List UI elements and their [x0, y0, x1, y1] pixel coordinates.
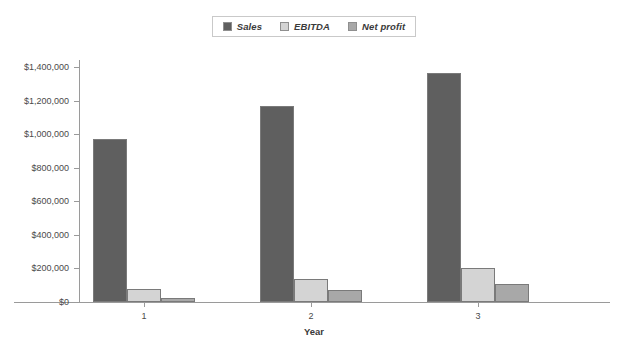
y-axis-tick-label: $1,400,000: [24, 62, 69, 72]
bar-ebitda-year-1[interactable]: [127, 289, 161, 302]
bar-chart: Sales EBITDA Net profit $1,400,000$1,200…: [0, 0, 628, 351]
x-axis-tick: [478, 302, 479, 307]
y-axis-tick: [74, 134, 79, 135]
y-axis-tick: [74, 268, 79, 269]
y-axis-tick-label: $0: [59, 297, 69, 307]
bar-sales-year-3[interactable]: [427, 73, 461, 302]
bar-net-profit-year-2[interactable]: [328, 290, 362, 302]
x-axis-tick-label: 3: [475, 311, 480, 321]
plot-wrapper: $1,400,000$1,200,000$1,000,000$800,000$6…: [0, 0, 628, 351]
y-axis-tick-label: $200,000: [31, 263, 69, 273]
y-axis-tick-label: $800,000: [31, 163, 69, 173]
x-axis-tick: [311, 302, 312, 307]
y-axis-tick: [74, 101, 79, 102]
y-axis-tick-label: $1,200,000: [24, 96, 69, 106]
x-axis-line: [14, 302, 610, 303]
bar-ebitda-year-2[interactable]: [294, 279, 328, 303]
y-axis-tick-label: $1,000,000: [24, 129, 69, 139]
x-axis-tick-label: 1: [141, 311, 146, 321]
x-axis-tick-label: 2: [308, 311, 313, 321]
y-axis-tick-label: $600,000: [31, 196, 69, 206]
plot-area: [80, 67, 608, 302]
y-axis-tick: [74, 67, 79, 68]
bar-net-profit-year-1[interactable]: [161, 298, 195, 302]
y-axis-tick: [74, 168, 79, 169]
y-axis-tick: [74, 302, 79, 303]
x-axis-tick: [144, 302, 145, 307]
x-axis-title: Year: [0, 326, 628, 337]
bar-net-profit-year-3[interactable]: [495, 284, 529, 302]
y-axis-tick-label: $400,000: [31, 230, 69, 240]
y-axis-tick: [74, 235, 79, 236]
bar-ebitda-year-3[interactable]: [461, 268, 495, 302]
y-axis-tick: [74, 201, 79, 202]
bar-sales-year-1[interactable]: [93, 139, 127, 302]
bar-sales-year-2[interactable]: [260, 106, 294, 302]
